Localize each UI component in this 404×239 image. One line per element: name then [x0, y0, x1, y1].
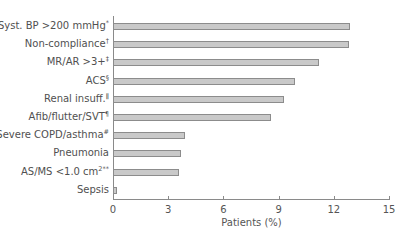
x-axis-title: Patients (%) — [113, 217, 390, 229]
x-tick-label: 3 — [153, 204, 183, 216]
bar — [113, 78, 295, 85]
x-axis — [113, 199, 390, 200]
category-label: Afib/flutter/SVT¶ — [29, 111, 109, 123]
x-tick-mark — [168, 196, 169, 200]
category-label: Syst. BP >200 mmHg* — [0, 20, 109, 32]
x-tick-label: 12 — [319, 204, 349, 216]
x-tick-mark — [223, 196, 224, 200]
x-tick-label: 0 — [98, 204, 128, 216]
category-label: Renal insuff.ǁ — [44, 93, 109, 105]
x-tick-label: 15 — [374, 204, 404, 216]
x-tick-mark — [279, 196, 280, 200]
category-label: MR/AR >3+‡ — [47, 56, 109, 68]
category-label: Pneumonia — [53, 147, 109, 159]
bar — [113, 150, 181, 157]
bar — [113, 187, 117, 194]
x-tick-label: 9 — [264, 204, 294, 216]
bar — [113, 41, 349, 48]
bar — [113, 96, 284, 103]
category-label: Non-compliance† — [25, 38, 109, 50]
category-label: AS/MS <1.0 cm2** — [21, 166, 109, 178]
bar — [113, 23, 350, 30]
bar — [113, 169, 179, 176]
category-label: Sepsis — [77, 184, 109, 196]
bar — [113, 132, 185, 139]
bar — [113, 114, 271, 121]
horizontal-bar-chart: Syst. BP >200 mmHg*Non-compliance†MR/AR … — [0, 0, 404, 239]
x-tick-mark — [334, 196, 335, 200]
category-label: ACS§ — [86, 75, 109, 87]
x-tick-label: 6 — [208, 204, 238, 216]
category-label: Severe COPD/asthma# — [0, 129, 109, 141]
x-tick-mark — [113, 196, 114, 200]
x-tick-mark — [389, 196, 390, 200]
bar — [113, 59, 319, 66]
